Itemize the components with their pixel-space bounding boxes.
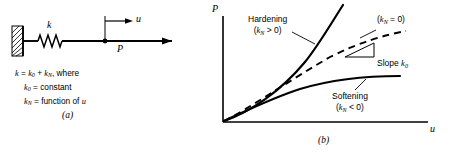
leader-linear [360, 30, 376, 38]
displacement-arrowhead-icon [125, 18, 133, 23]
figure-container: k u P k = k0 + kN, where k0 = constant k… [0, 0, 450, 153]
softening-annotation-line2: (kN < 0) [332, 102, 368, 115]
force-label: P [117, 44, 123, 55]
force-arrowhead-icon [162, 38, 172, 45]
hardening-annotation-line2: (kN > 0) [248, 25, 287, 38]
hardening-annotation-line1: Hardening [248, 14, 287, 25]
softening-annotation-line1: Softening [332, 91, 368, 102]
y-axis-label: P [212, 4, 218, 15]
slope-triangle-annotation [345, 43, 374, 57]
panel-b-caption: (b) [318, 135, 329, 146]
curve-softening [224, 76, 400, 121]
equation-line-1: k = k0 + kN, where [15, 68, 86, 82]
linear-annotation: (kN = 0) [377, 14, 405, 27]
slope-annotation: Slope k0 [377, 58, 408, 71]
wall-support-icon [12, 26, 23, 56]
panel-a-drawing [12, 16, 172, 56]
stiffness-equation-block: k = k0 + kN, where k0 = constant kN = fu… [15, 68, 86, 110]
spring-element [38, 35, 62, 47]
leader-softening [355, 79, 366, 90]
equation-line-3: kN = function of u [15, 96, 86, 110]
equation-line-2: k0 = constant [15, 82, 86, 96]
displacement-label: u [136, 14, 141, 25]
panel-a-caption: (a) [62, 110, 73, 121]
hardening-annotation: Hardening (kN > 0) [248, 14, 287, 38]
leader-hardening [292, 32, 315, 44]
x-axis-label: u [430, 124, 435, 135]
spring-stiffness-label: k [47, 20, 51, 31]
softening-annotation: Softening (kN < 0) [332, 91, 368, 115]
